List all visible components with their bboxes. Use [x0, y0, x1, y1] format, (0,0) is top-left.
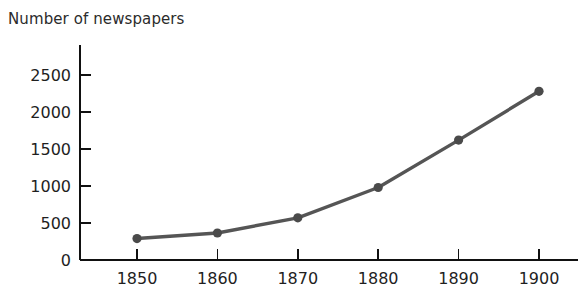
y-tick-label: 500	[40, 214, 71, 233]
x-tick-label: 1870	[277, 269, 318, 288]
y-axis: 05001000150020002500	[30, 45, 91, 270]
data-point-marker	[293, 213, 302, 222]
x-tick-label: 1890	[438, 269, 479, 288]
line-chart-plot: 05001000150020002500 1850186018701880189…	[0, 0, 583, 291]
data-series-newspapers	[132, 87, 543, 243]
data-point-marker	[534, 87, 543, 96]
data-point-marker	[213, 228, 222, 237]
y-tick-label: 2000	[30, 103, 71, 122]
y-tick-label: 1000	[30, 177, 71, 196]
x-tick-label: 1860	[197, 269, 238, 288]
y-tick-label: 0	[61, 251, 71, 270]
data-point-marker	[454, 136, 463, 145]
y-tick-label: 2500	[30, 66, 71, 85]
chart-figure: Number of newspapers 0500100015002000250…	[0, 0, 583, 291]
data-point-marker	[374, 183, 383, 192]
data-point-marker	[132, 234, 141, 243]
x-tick-label: 1850	[117, 269, 158, 288]
y-tick-label: 1500	[30, 140, 71, 159]
x-axis: 185018601870188018901900	[80, 249, 578, 288]
x-tick-label: 1880	[358, 269, 399, 288]
x-tick-label: 1900	[519, 269, 560, 288]
series-line	[137, 91, 539, 238]
